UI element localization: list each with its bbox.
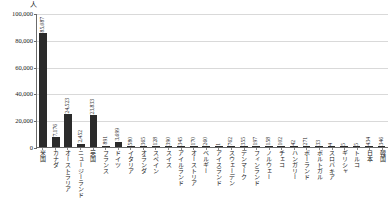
bar-slot: 5 — [338, 14, 351, 147]
y-axis-tick-label: 20,000 — [0, 118, 33, 125]
bar — [340, 146, 348, 147]
bar-value-label: 24,523 — [66, 98, 72, 113]
y-axis-tick-label: 60,000 — [0, 65, 33, 72]
bar-slot: 390 — [162, 14, 175, 147]
x-axis-label-slot: アイルランド — [174, 150, 187, 220]
x-axis-category-label: カナダ — [52, 150, 58, 220]
bar — [303, 146, 311, 147]
bar — [227, 146, 235, 147]
bar — [52, 137, 60, 147]
x-axis-label-slot: ノルウェー — [262, 150, 275, 220]
bar — [202, 146, 210, 147]
x-axis-category-label: フィンランド — [253, 150, 259, 220]
bar-slot: 1 — [212, 14, 225, 147]
bar — [315, 146, 323, 147]
bar — [77, 144, 85, 147]
x-axis-tick — [168, 148, 169, 150]
x-axis-tick — [306, 148, 307, 150]
bar-value-label: 365 — [141, 137, 147, 145]
x-axis-label-slot: ベルギー — [200, 150, 213, 220]
bar-value-label: 434 — [366, 137, 372, 145]
x-axis-label-slot: スイス — [162, 150, 175, 220]
bar-slot: 24,523 — [62, 14, 75, 147]
bar-value-label: 170 — [191, 137, 197, 145]
bar-slot: 271 — [300, 14, 313, 147]
x-axis-tick — [130, 148, 131, 150]
bar-slot: 170 — [187, 14, 200, 147]
bar-slot: 345 — [175, 14, 188, 147]
x-axis-labels: 米国カナダオーストラリアニュージーランド英国フランスドイツイタリアオランダスペイ… — [36, 150, 388, 220]
y-axis-tick-label: 40,000 — [0, 91, 33, 98]
bar-chart: 人 85,0877,17624,5232,45223,8338913,69958… — [0, 0, 392, 222]
bar — [265, 146, 273, 147]
bar-value-label: 355 — [241, 137, 247, 145]
bar-value-label: 5 — [354, 143, 360, 146]
bar-value-label: 2,452 — [78, 130, 84, 143]
x-axis-tick — [218, 148, 219, 150]
bar-slot: 762 — [225, 14, 238, 147]
x-axis-tick — [105, 148, 106, 150]
bar — [90, 115, 98, 147]
bar-value-label: 1 — [216, 143, 222, 146]
bar-slot: 891 — [100, 14, 113, 147]
x-axis-tick — [80, 148, 81, 150]
x-axis-tick — [231, 148, 232, 150]
bar-value-label: 4 — [329, 143, 335, 146]
bar-slot: 2,452 — [75, 14, 88, 147]
bar — [64, 114, 72, 147]
x-axis-category-label: トルコ — [354, 150, 360, 220]
x-axis-category-label: ニュージーランド — [77, 150, 83, 220]
x-axis-label-slot: オランダ — [137, 150, 150, 220]
bar-value-label: 85,087 — [40, 17, 46, 32]
bar — [277, 146, 285, 147]
bar-slot: 33 — [313, 14, 326, 147]
bar — [215, 146, 223, 147]
x-axis-tick — [319, 148, 320, 150]
x-axis-tick — [369, 148, 370, 150]
x-axis-label-slot: スウェーデン — [225, 150, 238, 220]
x-axis-category-label: 米国 — [39, 150, 45, 220]
x-axis-category-label: ポルトガル — [316, 150, 322, 220]
bar-series: 85,0877,17624,5232,45223,8338913,6995803… — [37, 14, 388, 147]
bar — [140, 146, 148, 147]
x-axis-category-label: ベルギー — [203, 150, 209, 220]
bar-slot: 85,087 — [37, 14, 50, 147]
x-axis-label-slot: オーストラリア — [61, 150, 74, 220]
bar — [115, 142, 123, 147]
bar-slot: 365 — [137, 14, 150, 147]
x-axis-label-slot: フランス — [99, 150, 112, 220]
bar-value-label: 346 — [379, 137, 385, 145]
x-axis-tick — [281, 148, 282, 150]
bar-value-label: 158 — [266, 137, 272, 145]
bar-value-label: 102 — [279, 137, 285, 145]
x-axis-tick — [181, 148, 182, 150]
x-axis-label-slot: ハンガリー — [288, 150, 301, 220]
x-axis-label-slot: アイスランド — [212, 150, 225, 220]
y-axis-tick — [34, 148, 37, 149]
y-axis-tick-label: 80,000 — [0, 38, 33, 45]
bar — [240, 146, 248, 147]
bar-slot: 4 — [325, 14, 338, 147]
bar-value-label: 197 — [254, 137, 260, 145]
x-axis-category-label: 日本 — [366, 150, 372, 220]
x-axis-category-label: ノルウェー — [266, 150, 272, 220]
x-axis-label-slot: イタリア — [124, 150, 137, 220]
bar-slot: 23,833 — [87, 14, 100, 147]
bar — [152, 146, 160, 147]
bar — [190, 146, 198, 147]
bar-slot: 42 — [288, 14, 301, 147]
x-axis-tick — [269, 148, 270, 150]
x-axis-category-label: スイス — [165, 150, 171, 220]
x-axis-tick — [143, 148, 144, 150]
x-axis-category-label: アイルランド — [178, 150, 184, 220]
x-axis-tick — [42, 148, 43, 150]
x-axis-category-label: チェコ — [278, 150, 284, 220]
bar-slot: 158 — [263, 14, 276, 147]
x-axis-tick — [67, 148, 68, 150]
x-axis-tick — [332, 148, 333, 150]
bar — [127, 146, 135, 147]
bar — [39, 33, 47, 147]
x-axis-category-label: スロバキア — [328, 150, 334, 220]
x-axis-label-slot: スペイン — [149, 150, 162, 220]
x-axis-category-label: イタリア — [127, 150, 133, 220]
